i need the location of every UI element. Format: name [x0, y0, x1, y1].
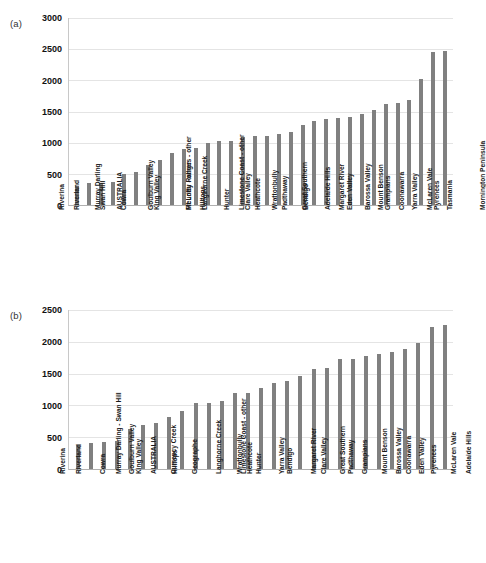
- x-tick-label: Grampians: [385, 176, 392, 210]
- panel-label-b: (b): [10, 310, 22, 321]
- x-tick-label: Mount Benson: [382, 428, 389, 474]
- bar-slot: [97, 310, 110, 469]
- bar-slot: [71, 18, 83, 205]
- x-label-slot: Bendigo: [284, 208, 297, 218]
- y-tick-label: 2000: [42, 338, 62, 347]
- bar: [87, 183, 91, 205]
- x-label-slot: Adelaide Hills: [437, 472, 451, 482]
- bar: [134, 172, 138, 205]
- bar: [217, 141, 221, 205]
- x-label-slot: Yarra Valley: [253, 472, 267, 482]
- x-label-slot: Yarra Valley: [387, 208, 400, 218]
- bar-slot: [166, 18, 178, 205]
- x-tick-label: Grampians: [362, 440, 369, 474]
- x-tick-label: Heathcote: [247, 442, 254, 474]
- bar: [390, 352, 394, 469]
- x-label-slot: Wrattonbully: [210, 472, 224, 482]
- x-tick-label: Cowra: [100, 454, 107, 474]
- y-tick-label: 2500: [42, 306, 62, 315]
- bar-slot: [439, 18, 451, 205]
- x-label-slot: Hilltops: [153, 472, 167, 482]
- bar-slot: [202, 310, 215, 469]
- x-label-slot: Great Southern: [309, 472, 323, 482]
- x-label-slot: Tasmania: [425, 208, 438, 218]
- x-label-slot: Currency Creek: [139, 472, 153, 482]
- x-tick-label: Yarra Valley: [278, 437, 285, 474]
- x-label-slot: Langhorne Creek: [182, 472, 196, 482]
- x-tick-label: Pyrenees: [434, 181, 441, 210]
- x-label-slot: Murray Darling - Swan Hill: [68, 472, 82, 482]
- x-label-slot: Riverina: [40, 472, 54, 482]
- x-tick-label: Wrattonbully: [237, 434, 244, 474]
- bar: [194, 148, 198, 205]
- bar: [207, 403, 211, 469]
- x-label-slot: Swan Hill: [79, 208, 92, 218]
- x-tick-label: Bendigo: [287, 448, 294, 474]
- x-tick-label: Bendigo: [304, 184, 311, 210]
- bar-slot: [83, 18, 95, 205]
- x-label-slot: Fleurieu - other: [156, 208, 169, 218]
- x-label-slot: Hilltops: [181, 208, 194, 218]
- bar: [298, 376, 302, 469]
- bar-slot: [214, 18, 226, 205]
- bar: [89, 443, 93, 469]
- x-label-slot: Clare Valley: [220, 208, 233, 218]
- x-label-slot: Riverina: [40, 208, 53, 218]
- bar: [312, 121, 316, 205]
- x-label-slot: Murray Darling: [66, 208, 79, 218]
- x-label-slot: Barossa Valley: [335, 208, 348, 218]
- x-tick-label: Riverina: [60, 448, 67, 474]
- x-tick-label: Langhorne Creek: [216, 420, 223, 474]
- x-tick-label: King Valley: [136, 439, 143, 474]
- bar: [372, 110, 376, 205]
- x-label-slot: Mornington Peninsula: [438, 208, 451, 218]
- x-tick-label: King Valley: [154, 175, 161, 210]
- y-tick-label: 500: [47, 170, 62, 179]
- x-label-slot: Goulburn Valley: [117, 208, 130, 218]
- x-label-slot: AUSTRALIA: [91, 208, 104, 218]
- x-tick-label: Fleurieu - other: [186, 162, 193, 210]
- y-tick-label: 500: [47, 434, 62, 443]
- x-label-slot: Riverland: [54, 472, 68, 482]
- x-tick-label: Clare Valley: [321, 437, 328, 474]
- x-label-slot: Limestone Coast - other: [196, 472, 210, 482]
- bar: [180, 411, 184, 469]
- chart-panel-a: (a) 050010001500200025003000 RiverinaRiv…: [0, 8, 453, 290]
- x-label-slot: Limestone Coast - other: [194, 208, 207, 218]
- y-tick-label: 1500: [42, 370, 62, 379]
- bar-slot: [294, 310, 307, 469]
- x-tick-label: Coonawarra: [399, 172, 406, 210]
- y-axis-b: 05001000150020002500: [30, 310, 66, 470]
- x-label-slot: Adelaide Hills: [297, 208, 310, 218]
- x-label-slot: Heathcote: [224, 472, 238, 482]
- x-label-slot: Padthaway: [323, 472, 337, 482]
- bar: [170, 153, 174, 205]
- x-label-slot: Mount Benson: [348, 208, 361, 218]
- x-tick-label: McLaren Vale: [451, 432, 458, 474]
- x-label-slot: Hunter: [238, 472, 252, 482]
- x-label-slot: Pyrenees: [408, 472, 422, 482]
- x-label-slot: King Valley: [130, 208, 143, 218]
- x-tick-label: Margaret River: [339, 164, 346, 210]
- panel-label-a: (a): [10, 18, 22, 29]
- x-label-slot: King Valley: [111, 472, 125, 482]
- bar: [443, 325, 447, 469]
- y-tick-label: 1500: [42, 108, 62, 117]
- x-label-slot: Padthaway: [258, 208, 271, 218]
- x-label-slot: Mt Lofty Ranges - other: [143, 208, 156, 218]
- bar: [265, 136, 269, 206]
- bar: [419, 79, 423, 205]
- y-tick-label: 2500: [42, 45, 62, 54]
- x-label-slot: Cowra: [83, 472, 97, 482]
- x-tick-label: Barossa Valley: [396, 427, 403, 474]
- bar: [272, 383, 276, 469]
- x-tick-label: Tasmania: [447, 180, 454, 210]
- x-tick-label: Murray Darling - Swan Hill: [116, 392, 123, 474]
- x-tick-label: Coonawarra: [406, 436, 413, 474]
- x-tick-label: Hunter: [224, 189, 231, 210]
- x-tick-label: Riverland: [76, 444, 83, 474]
- bar-series-a: [69, 18, 453, 205]
- x-label-slot: Wrattonbully: [246, 208, 259, 218]
- x-label-slot: Great Southern: [271, 208, 284, 218]
- x-tick-label: Adelaide Hills: [466, 431, 473, 474]
